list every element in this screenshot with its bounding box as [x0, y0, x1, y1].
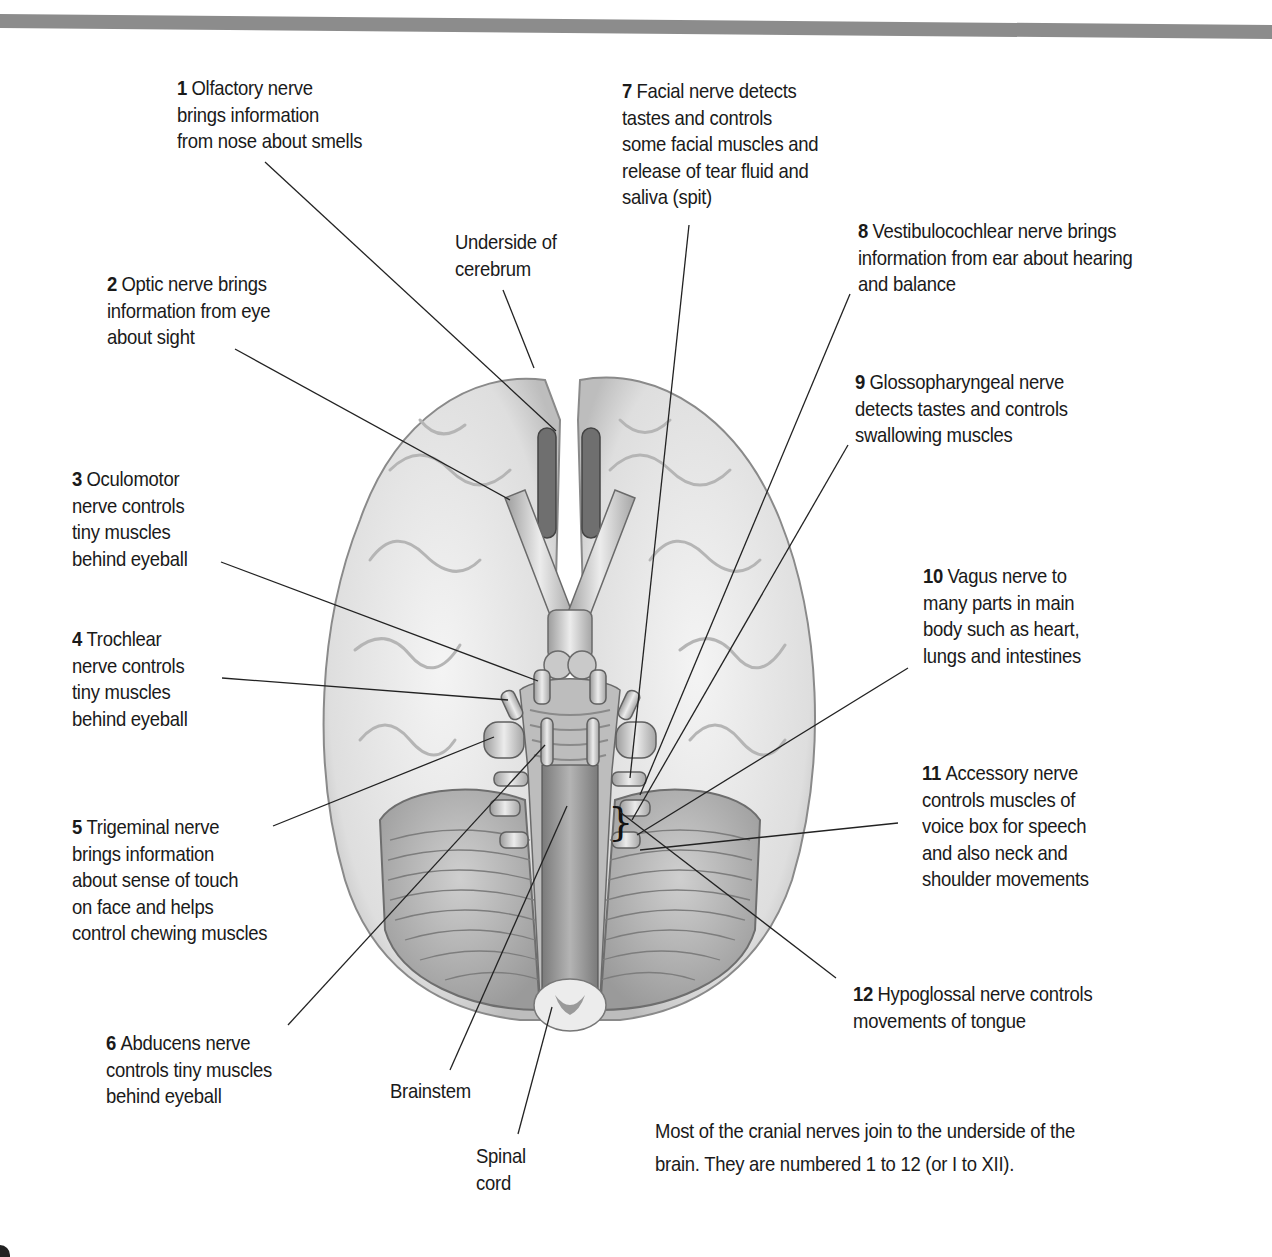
- label-nerve-3-oculomotor: 3Oculomotor nerve controls tiny muscles …: [72, 466, 188, 572]
- label-line: many parts in main: [923, 590, 1081, 617]
- label-nerve-1-olfactory: 1Olfactory nerve brings information from…: [177, 75, 362, 155]
- label-line: movements of tongue: [853, 1008, 1092, 1035]
- nerve-number: 12: [853, 982, 873, 1005]
- nerve-number: 10: [923, 564, 943, 587]
- label-line: lungs and intestines: [923, 643, 1081, 670]
- label-line: and balance: [858, 271, 1133, 298]
- label-line: about sense of touch: [72, 867, 267, 894]
- nerve-number: 4: [72, 627, 82, 650]
- label-line: information from eye: [107, 298, 270, 325]
- bracket-symbol: }: [608, 798, 633, 844]
- label-line: saliva (spit): [622, 184, 818, 211]
- label-nerve-10-vagus: 10Vagus nerve to many parts in main body…: [923, 563, 1081, 669]
- label-line: controls muscles of: [922, 787, 1089, 814]
- label-line: detects tastes and controls: [855, 396, 1068, 423]
- label-line: Trigeminal nerve: [86, 815, 219, 838]
- nerve-number: 9: [855, 370, 865, 393]
- nerve-number: 1: [177, 76, 187, 99]
- label-line: Hypoglossal nerve controls: [877, 982, 1092, 1005]
- olfactory-bulbs: [538, 428, 600, 538]
- label-line: behind eyeball: [72, 546, 188, 573]
- nerve-number: 3: [72, 467, 82, 490]
- label-line: nerve controls: [72, 493, 188, 520]
- label-line: from nose about smells: [177, 128, 362, 155]
- label-line: nerve controls: [72, 653, 188, 680]
- label-nerve-11-accessory: 11Accessory nerve controls muscles of vo…: [922, 760, 1089, 893]
- label-line: Facial nerve detects: [636, 79, 796, 102]
- label-line: cord: [476, 1170, 526, 1197]
- label-line: shoulder movements: [922, 866, 1089, 893]
- nerve-number: 8: [858, 219, 868, 242]
- label-nerve-6-abducens: 6Abducens nerve controls tiny muscles be…: [106, 1030, 272, 1110]
- label-line: Glossopharyngeal nerve: [869, 370, 1064, 393]
- label-line: release of tear fluid and: [622, 158, 818, 185]
- label-line: Spinal: [476, 1143, 526, 1170]
- label-nerve-5-trigeminal: 5Trigeminal nerve brings information abo…: [72, 814, 267, 947]
- label-nerve-2-optic: 2Optic nerve brings information from eye…: [107, 271, 270, 351]
- label-line: behind eyeball: [106, 1083, 272, 1110]
- caption: Most of the cranial nerves join to the u…: [655, 1114, 1075, 1180]
- label-cerebrum: Underside of cerebrum: [455, 229, 557, 282]
- nerve-number: 7: [622, 79, 632, 102]
- label-line: on face and helps: [72, 894, 267, 921]
- label-line: Abducens nerve: [120, 1031, 250, 1054]
- label-nerve-4-trochlear: 4Trochlear nerve controls tiny muscles b…: [72, 626, 188, 732]
- caption-line: Most of the cranial nerves join to the u…: [655, 1114, 1075, 1147]
- label-line: tastes and controls: [622, 105, 818, 132]
- caption-line: brain. They are numbered 1 to 12 (or I t…: [655, 1147, 1075, 1180]
- label-brainstem: Brainstem: [390, 1078, 471, 1105]
- label-nerve-12-hypoglossal: 12Hypoglossal nerve controls movements o…: [853, 981, 1092, 1034]
- label-line: Underside of: [455, 229, 557, 256]
- label-line: brings information: [177, 102, 362, 129]
- label-line: tiny muscles: [72, 519, 188, 546]
- label-line: Accessory nerve: [945, 761, 1078, 784]
- label-line: information from ear about hearing: [858, 245, 1133, 272]
- label-line: brings information: [72, 841, 267, 868]
- label-line: and also neck and: [922, 840, 1089, 867]
- label-nerve-8-vestibulocochlear: 8Vestibulocochlear nerve brings informat…: [858, 218, 1133, 298]
- nerve-number: 11: [922, 761, 941, 784]
- label-line: Optic nerve brings: [121, 272, 266, 295]
- label-line: Brainstem: [390, 1078, 471, 1105]
- label-line: swallowing muscles: [855, 422, 1068, 449]
- label-nerve-7-facial: 7Facial nerve detects tastes and control…: [622, 78, 818, 211]
- nerve-number: 5: [72, 815, 82, 838]
- label-line: Vestibulocochlear nerve brings: [872, 219, 1116, 242]
- label-line: Olfactory nerve: [191, 76, 312, 99]
- label-line: controls tiny muscles: [106, 1057, 272, 1084]
- label-line: tiny muscles: [72, 679, 188, 706]
- label-line: about sight: [107, 324, 270, 351]
- label-line: cerebrum: [455, 256, 557, 283]
- label-line: body such as heart,: [923, 616, 1081, 643]
- label-line: Oculomotor: [86, 467, 179, 490]
- nerve-number: 6: [106, 1031, 116, 1054]
- label-nerve-9-glossopharyngeal: 9Glossopharyngeal nerve detects tastes a…: [855, 369, 1068, 449]
- label-line: some facial muscles and: [622, 131, 818, 158]
- label-line: Vagus nerve to: [947, 564, 1066, 587]
- label-line: behind eyeball: [72, 706, 188, 733]
- nerve-number: 2: [107, 272, 117, 295]
- label-line: control chewing muscles: [72, 920, 267, 947]
- label-spinal-cord: Spinal cord: [476, 1143, 526, 1196]
- label-line: Trochlear: [86, 627, 161, 650]
- label-line: voice box for speech: [922, 813, 1089, 840]
